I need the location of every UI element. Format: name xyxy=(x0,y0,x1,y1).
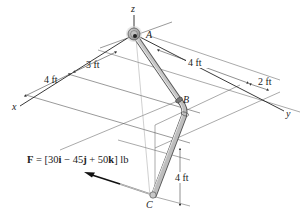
force-i-coef: = [30 xyxy=(33,154,58,165)
force-k-coef: + 50 xyxy=(87,154,109,165)
dim-x-near: 4 ft xyxy=(44,74,58,85)
dim-z-drop: 4 ft xyxy=(175,172,189,183)
pipe-assembly-diagram: z x y 4 ft 3 ft 4 ft 2 ft 4 ft xyxy=(0,0,305,224)
x-axis-label: x xyxy=(11,101,17,112)
x-axis xyxy=(20,34,134,106)
point-C-label: C xyxy=(146,199,153,210)
dim-x-far: 3 ft xyxy=(86,59,100,70)
dim-y-offset: 2 ft xyxy=(258,76,272,87)
force-arrow xyxy=(84,172,150,194)
force-j-coef: − 45 xyxy=(62,154,84,165)
force-unit: ] lb xyxy=(114,154,128,165)
z-axis-label: z xyxy=(130,3,135,14)
y-axis-label: y xyxy=(285,108,291,119)
support-A xyxy=(126,26,142,42)
point-B-label: B xyxy=(183,94,189,105)
pipe-segment-AB xyxy=(135,37,180,102)
y-dimension-lines xyxy=(158,50,268,90)
force-label: F = [30i − 45j + 50k] lb xyxy=(27,154,129,165)
joint-C xyxy=(150,192,156,198)
point-A-label: A xyxy=(145,29,153,40)
dim-y-main: 4 ft xyxy=(188,57,202,68)
